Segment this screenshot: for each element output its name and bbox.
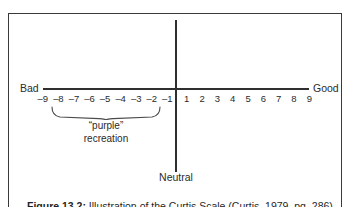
neutral-label-text: Neutral: [159, 171, 193, 183]
vertical-neutral-axis-line: [175, 20, 177, 172]
tick-label: –2: [144, 93, 160, 105]
tick-label: 1: [179, 93, 194, 105]
tick-label: 3: [210, 93, 225, 105]
tick-label: –9: [35, 93, 51, 105]
brace-annotation-line-1: “purple”: [51, 120, 161, 133]
tick-label: –4: [113, 93, 129, 105]
figure-caption-text: Illustration of the Curtis Scale (Curtis…: [86, 200, 333, 207]
negative-tick-labels: –9 –8 –7 –6 –5 –4 –3 –2 –1: [35, 93, 175, 106]
tick-label: 5: [240, 93, 255, 105]
tick-label: 8: [286, 93, 301, 105]
figure-frame: Bad Good –9 –8 –7 –6 –5 –4 –3 –2 –1 1 2 …: [8, 13, 342, 207]
tick-label: –7: [66, 93, 82, 105]
figure-caption-number: Figure 13.2:: [27, 200, 86, 207]
positive-tick-labels: 1 2 3 4 5 6 7 8 9: [179, 93, 317, 106]
figure-caption: Figure 13.2: Illustration of the Curtis …: [27, 200, 345, 207]
tick-label: –3: [128, 93, 144, 105]
tick-label: –6: [82, 93, 98, 105]
curtis-scale-plot: Bad Good –9 –8 –7 –6 –5 –4 –3 –2 –1 1 2 …: [9, 14, 343, 182]
purple-recreation-brace-icon: [51, 106, 161, 120]
brace-annotation-label: “purple” recreation: [51, 120, 161, 145]
tick-label: –5: [97, 93, 113, 105]
tick-label: 4: [225, 93, 240, 105]
tick-label: 7: [271, 93, 286, 105]
tick-label: 9: [302, 93, 317, 105]
tick-label: 6: [256, 93, 271, 105]
tick-label: –8: [51, 93, 67, 105]
brace-annotation-line-2: recreation: [51, 133, 161, 146]
axis-center-label-neutral: Neutral: [9, 171, 343, 183]
tick-label: 2: [194, 93, 209, 105]
tick-label: –1: [160, 93, 176, 105]
